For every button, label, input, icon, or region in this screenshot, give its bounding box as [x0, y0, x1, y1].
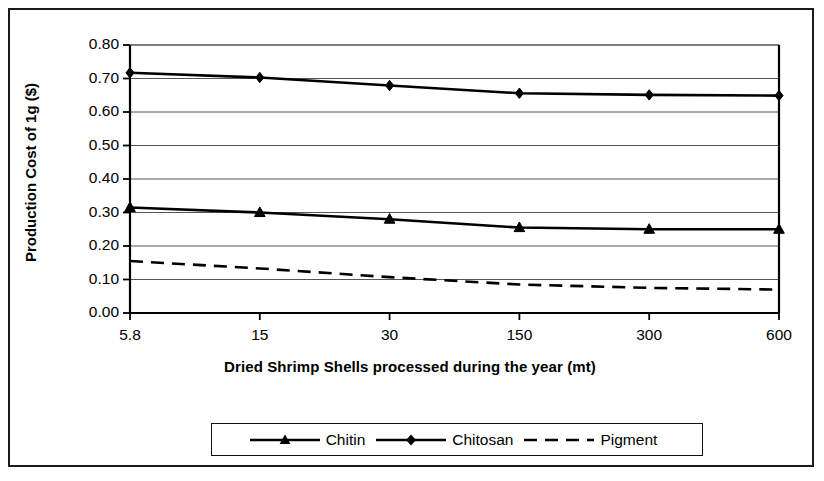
y-axis-tick-label: 0.00: [57, 303, 119, 321]
legend-item-chitosan: Chitosan: [374, 431, 522, 449]
legend-marker-diamond: [406, 434, 416, 445]
y-axis-tick-label: 0.10: [57, 270, 119, 288]
series-line-chitin: [130, 207, 779, 229]
y-axis-tick-label: 0.40: [57, 169, 119, 187]
series-line-pigment: [130, 261, 779, 289]
marker-diamond: [256, 72, 264, 82]
chart-plot-svg: [0, 0, 824, 481]
x-axis-tick-label: 15: [251, 326, 268, 344]
marker-diamond: [386, 80, 394, 90]
x-axis-tick-label: 600: [766, 326, 792, 344]
marker-diamond: [775, 90, 783, 100]
chart-legend: ChitinChitosanPigment: [211, 423, 703, 456]
y-axis-tick-label: 0.60: [57, 102, 119, 120]
axis-ticks-group: [123, 45, 779, 320]
x-axis-tick-label: 150: [506, 326, 532, 344]
y-axis-tick-label: 0.80: [57, 35, 119, 53]
marker-diamond: [645, 90, 653, 100]
marker-diamond: [515, 88, 523, 98]
legend-label: Pigment: [596, 431, 666, 449]
legend-swatch-chitin: [248, 432, 322, 448]
legend-swatch-chitosan: [374, 432, 448, 448]
marker-diamond: [126, 68, 134, 78]
series-line-chitosan: [130, 73, 779, 96]
x-axis-tick-label: 30: [381, 326, 398, 344]
legend-label: Chitin: [322, 431, 375, 449]
legend-swatch-pigment: [522, 432, 596, 448]
legend-item-chitin: Chitin: [248, 431, 375, 449]
x-axis-tick-label: 300: [636, 326, 662, 344]
y-axis-tick-label: 0.50: [57, 136, 119, 154]
y-axis-tick-label: 0.30: [57, 203, 119, 221]
y-axis-tick-label: 0.20: [57, 236, 119, 254]
x-axis-title: Dried Shrimp Shells processed during the…: [60, 358, 760, 375]
gridlines-group: [130, 45, 779, 313]
y-axis-tick-label: 0.70: [57, 69, 119, 87]
legend-label: Chitosan: [448, 431, 522, 449]
x-axis-tick-label: 5.8: [119, 326, 141, 344]
legend-item-pigment: Pigment: [522, 431, 666, 449]
figure-canvas: Production Cost of 1g ($) 0.000.100.200.…: [0, 0, 824, 481]
